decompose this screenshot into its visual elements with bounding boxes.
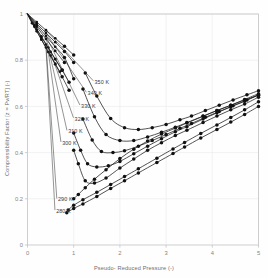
svg-text:0.8: 0.8 (15, 57, 23, 63)
svg-text:0: 0 (26, 250, 29, 256)
svg-text:0.4: 0.4 (15, 150, 24, 156)
y-axis-title: Compressibility Factor [z = Pv/RT] (-) (4, 80, 10, 176)
svg-text:4: 4 (211, 250, 215, 256)
data-series-group (28, 14, 261, 214)
compressibility-factor-chart: 012345 00.20.40.60.81 350 K340 K330 K320… (0, 0, 268, 278)
svg-text:0: 0 (20, 242, 23, 248)
svg-text:0.2: 0.2 (15, 196, 23, 202)
series-annotation: 280 K (56, 208, 71, 214)
series-annotation: 300 K (62, 140, 77, 146)
svg-text:1: 1 (20, 11, 23, 17)
svg-text:2: 2 (118, 250, 121, 256)
svg-text:0.6: 0.6 (15, 104, 23, 110)
series-310-k (28, 14, 261, 185)
series-350-k (28, 14, 261, 131)
x-axis-title: Pseudo- Reduced Pressure (-) (0, 265, 268, 271)
y-axis-ticks: 00.20.40.60.81 (15, 11, 27, 248)
series-annotation: 310 K (68, 128, 83, 134)
svg-text:5: 5 (257, 250, 260, 256)
plot-canvas: 012345 00.20.40.60.81 350 K340 K330 K320… (0, 0, 268, 278)
series-annotation: 340 K (88, 90, 103, 96)
svg-text:3: 3 (164, 250, 167, 256)
series-330-k (28, 14, 261, 154)
series-annotation: 350 K (94, 79, 109, 85)
series-290-k (28, 14, 261, 212)
series-annotation: 290 K (58, 196, 73, 202)
svg-text:1: 1 (72, 250, 75, 256)
series-annotation: 320 K (75, 116, 90, 122)
x-axis-ticks: 012345 (26, 245, 260, 256)
series-annotation: 330 K (81, 103, 96, 109)
